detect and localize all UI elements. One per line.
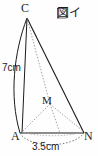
cone-height-axis-line bbox=[22, 18, 27, 133]
vertex-label-n: N bbox=[84, 130, 93, 142]
cone-right-slant-line bbox=[27, 18, 84, 133]
figure-title-label: 図イ bbox=[57, 7, 81, 19]
vertex-label-m: M bbox=[42, 95, 52, 106]
construction-line-a-to-m bbox=[23, 104, 50, 131]
construction-line-c-to-m bbox=[27, 18, 50, 104]
height-measurement-label: 7cm bbox=[2, 63, 21, 73]
base-diameter-measurement-label: 3.5cm bbox=[32, 142, 59, 152]
figure-container: C A N M 7cm 3.5cm 図イ bbox=[0, 0, 98, 156]
cone-left-silhouette-arc bbox=[14, 18, 27, 133]
vertex-label-a: A bbox=[11, 130, 20, 142]
construction-line-m-to-n bbox=[50, 104, 83, 131]
vertex-label-c: C bbox=[21, 2, 29, 14]
